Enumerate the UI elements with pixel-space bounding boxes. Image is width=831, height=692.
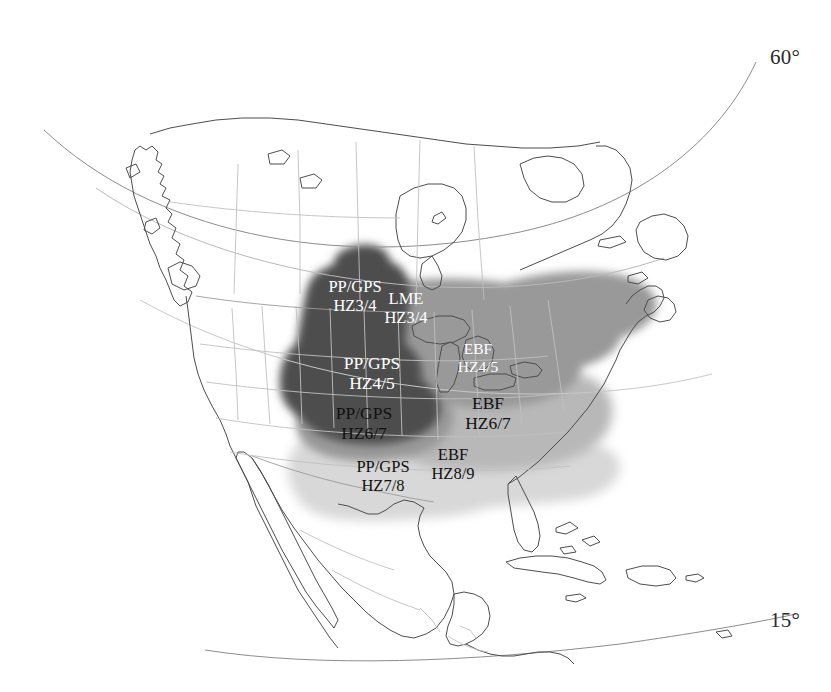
border-province-v2 [298,150,300,294]
graticule-label-60: 60° [770,45,800,70]
island-hudson-small [432,212,446,224]
border-mexico-states-3 [420,608,440,632]
parallel-60 [44,62,756,247]
island-bahamas-3 [560,546,576,554]
vegetation-shading-layer [280,245,657,521]
border-province-v5 [474,146,484,300]
coast-ungava [520,156,584,202]
island-jamaica [566,594,586,602]
coast-gulf-texas [338,500,454,638]
coast-st-lawrence [520,146,632,270]
map-figure: 60° 15° PP/GPS HZ3/4 LME HZ3/4 EBF HZ4/5… [0,0,831,692]
island-bahamas-2 [582,536,600,546]
border-mexico-states-2 [332,570,420,610]
border-province-h1 [170,202,400,218]
lake-great-bear [268,150,290,164]
coast-arctic-north [150,118,600,148]
island-cuba [506,556,606,584]
border-guatemala [448,636,488,652]
island-bahamas-1 [556,522,578,534]
island-puerto-rico [686,574,704,582]
island-kodiak [126,164,140,178]
island-hispaniola [626,566,676,586]
border-state-v1 [232,308,238,420]
border-province-v1 [234,164,238,294]
lake-great-slave [300,174,322,188]
island-trinidad [716,630,732,638]
border-belize [460,626,476,638]
coast-yucatan [446,592,490,646]
border-mexico-states-1 [300,530,394,570]
border-state-v2 [262,306,270,424]
graticule-label-15: 15° [770,608,800,633]
parallel-15 [205,614,796,661]
map-canvas [0,0,831,692]
island-anticosti [598,236,626,248]
coast-newfoundland [636,214,688,260]
